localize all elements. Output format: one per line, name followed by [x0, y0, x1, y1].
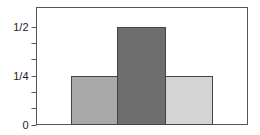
bar-2	[118, 28, 166, 125]
bar-3	[166, 77, 213, 125]
y-tick-label: 0	[22, 119, 28, 131]
bars	[72, 28, 213, 125]
y-tick-label: 1/2	[13, 21, 28, 33]
y-axis-ticks	[32, 28, 37, 126]
y-tick-label: 1/4	[13, 70, 28, 82]
y-axis-tick-labels: 01/41/2	[13, 21, 28, 131]
bar-1	[72, 77, 118, 125]
bar-chart: 01/41/2	[0, 0, 260, 135]
